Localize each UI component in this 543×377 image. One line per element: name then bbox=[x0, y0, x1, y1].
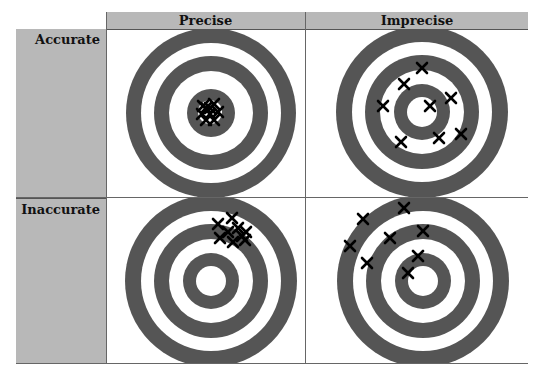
x-mark-icon bbox=[233, 223, 243, 233]
x-mark-icon bbox=[233, 223, 243, 233]
x-mark-icon bbox=[209, 99, 219, 109]
x-mark-icon bbox=[403, 268, 413, 278]
x-mark-icon bbox=[197, 109, 207, 119]
x-mark-icon bbox=[198, 101, 208, 111]
row-header-label: Inaccurate bbox=[21, 202, 100, 217]
x-mark-icon bbox=[345, 241, 355, 251]
x-mark-icon bbox=[215, 233, 225, 243]
x-mark-icon bbox=[205, 103, 215, 113]
column-header-precise: Precise bbox=[106, 12, 305, 30]
x-mark-icon bbox=[209, 115, 219, 125]
x-mark-icon bbox=[456, 129, 466, 139]
x-mark-icon bbox=[205, 109, 215, 119]
x-mark-icon bbox=[413, 251, 423, 261]
column-header-imprecise: Imprecise bbox=[306, 12, 528, 30]
x-mark-icon bbox=[237, 231, 247, 241]
x-mark-icon bbox=[385, 233, 395, 243]
row-header-accurate: Accurate bbox=[16, 29, 106, 197]
target-accurate-imprecise bbox=[336, 26, 508, 198]
row-header-inaccurate: Inaccurate bbox=[16, 198, 106, 363]
x-mark-icon bbox=[362, 258, 372, 268]
x-mark-icon bbox=[434, 133, 444, 143]
x-mark-icon bbox=[201, 103, 211, 113]
x-mark-icon bbox=[237, 231, 247, 241]
target-inaccurate-imprecise bbox=[337, 195, 509, 367]
x-mark-icon bbox=[205, 103, 215, 113]
target-accurate-precise bbox=[126, 28, 296, 198]
x-mark-icon bbox=[345, 241, 355, 251]
x-mark-icon bbox=[417, 63, 427, 73]
x-mark-icon bbox=[358, 214, 368, 224]
x-mark-icon bbox=[227, 213, 237, 223]
x-mark-icon bbox=[399, 79, 409, 89]
x-mark-icon bbox=[413, 251, 423, 261]
x-mark-icon bbox=[241, 227, 251, 237]
row-header-label: Accurate bbox=[35, 32, 100, 47]
target-inaccurate-precise bbox=[125, 195, 297, 367]
x-mark-icon bbox=[201, 103, 211, 113]
x-mark-icon bbox=[399, 203, 409, 213]
x-mark-icon bbox=[362, 258, 372, 268]
x-mark-icon bbox=[417, 63, 427, 73]
x-mark-icon bbox=[215, 233, 225, 243]
x-mark-icon bbox=[213, 107, 223, 117]
x-mark-icon bbox=[403, 268, 413, 278]
x-mark-icon bbox=[396, 137, 406, 147]
x-mark-icon bbox=[434, 133, 444, 143]
x-mark-icon bbox=[228, 237, 238, 247]
x-mark-icon bbox=[240, 235, 250, 245]
x-mark-icon bbox=[209, 99, 219, 109]
x-mark-icon bbox=[213, 219, 223, 229]
x-mark-icon bbox=[396, 137, 406, 147]
x-mark-icon bbox=[378, 101, 388, 111]
x-mark-icon bbox=[197, 109, 207, 119]
x-mark-icon bbox=[201, 115, 211, 125]
x-mark-icon bbox=[418, 226, 428, 236]
x-mark-icon bbox=[385, 233, 395, 243]
x-mark-icon bbox=[228, 237, 238, 247]
x-mark-icon bbox=[201, 115, 211, 125]
x-mark-icon bbox=[446, 93, 456, 103]
grid-divider bbox=[16, 197, 528, 198]
x-mark-icon bbox=[223, 227, 233, 237]
x-mark-icon bbox=[418, 226, 428, 236]
grid-divider bbox=[106, 12, 107, 363]
x-mark-icon bbox=[209, 115, 219, 125]
x-mark-icon bbox=[223, 227, 233, 237]
x-mark-icon bbox=[205, 109, 215, 119]
x-mark-icon bbox=[198, 101, 208, 111]
x-mark-icon bbox=[378, 101, 388, 111]
x-mark-icon bbox=[227, 213, 237, 223]
grid-divider bbox=[305, 12, 306, 363]
x-mark-icon bbox=[241, 227, 251, 237]
x-mark-icon bbox=[456, 129, 466, 139]
x-mark-icon bbox=[425, 101, 435, 111]
x-mark-icon bbox=[213, 107, 223, 117]
x-mark-icon bbox=[240, 235, 250, 245]
column-header-label: Imprecise bbox=[381, 13, 454, 28]
x-mark-icon bbox=[399, 79, 409, 89]
x-mark-icon bbox=[399, 203, 409, 213]
x-mark-icon bbox=[358, 214, 368, 224]
x-mark-icon bbox=[425, 101, 435, 111]
x-mark-icon bbox=[446, 93, 456, 103]
grid-divider bbox=[16, 363, 528, 364]
column-header-label: Precise bbox=[179, 13, 232, 28]
x-mark-icon bbox=[213, 219, 223, 229]
